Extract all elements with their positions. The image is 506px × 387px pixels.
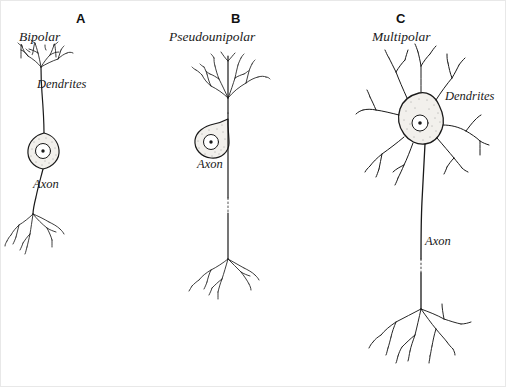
axon [421,144,425,309]
bipolar-neuron-drawing [1,1,171,387]
axon-label: Axon [33,177,59,192]
panel-pseudounipolar: B Pseudounipolar [171,1,341,387]
dendrites-label: Dendrites [445,89,494,104]
axon-terminals [5,214,64,254]
nucleolus [41,149,44,152]
nucleolus [418,121,422,125]
pseudounipolar-neuron-drawing [171,1,341,387]
neuron-types-figure: A Bipolar [0,0,506,387]
panel-multipolar: C Multipolar [341,1,506,387]
dendrites-label: Dendrites [37,77,86,92]
axon-label: Axon [197,157,223,172]
dendrite-arbor [192,52,270,98]
axon-label: Axon [425,234,451,249]
panel-bipolar: A Bipolar [1,1,171,387]
nucleolus [209,140,212,143]
dendrite-arbor [18,40,73,67]
axon-terminals [369,304,471,363]
multipolar-neuron-drawing [341,1,506,387]
axon-terminals [189,259,259,299]
